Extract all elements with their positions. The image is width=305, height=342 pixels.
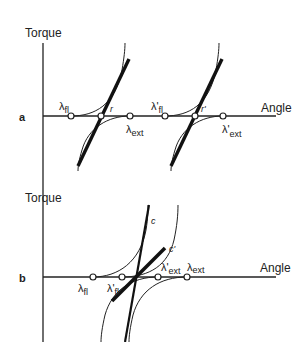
label-lambda-fl: λfl: [59, 100, 69, 115]
point-lambda-ext-prime-b: [155, 274, 161, 280]
curve-ext-lower-b: [129, 277, 187, 342]
label-lambda-fl-prime-b: λ'fl: [107, 282, 119, 297]
point-lambda-ext-b: [184, 274, 190, 280]
panel-a-y-label: Torque: [25, 26, 62, 40]
label-c: c: [151, 216, 156, 226]
curve-fl-upper-b: [93, 205, 148, 277]
point-lambda-fl-prime-b: [119, 274, 125, 280]
curve-ext-prime-lower: [171, 116, 223, 171]
label-c-prime: c': [169, 244, 176, 254]
curve-ext-lower: [78, 116, 130, 171]
stiffness-line-r: [78, 59, 129, 166]
panel-a-x-label: Angle: [261, 101, 292, 115]
curve-fl-upper: [71, 43, 125, 116]
label-r-prime: r': [201, 104, 206, 114]
panel-b-x-label: Angle: [260, 261, 291, 275]
panel-b: Torque Angle b c c' λfl λ'fl λ'ext λext: [19, 171, 291, 342]
label-lambda-ext-prime-b: λ'ext: [161, 261, 181, 276]
point-lambda-fl-b: [90, 274, 96, 280]
panel-a-letter: a: [19, 111, 26, 123]
point-r: [98, 113, 104, 119]
point-r-prime: [192, 113, 198, 119]
panel-a: Torque Angle a λfl r λext λ'fl r' λ'ext: [19, 26, 292, 171]
point-lambda-ext-prime: [220, 113, 226, 119]
label-lambda-ext-prime: λ'ext: [222, 123, 242, 139]
torque-angle-figure: Torque Angle a λfl r λext λ'fl r' λ'ext …: [0, 0, 305, 342]
label-lambda-fl-prime: λ'fl: [151, 100, 163, 115]
label-lambda-fl-b: λfl: [78, 282, 88, 297]
panel-b-letter: b: [19, 272, 26, 284]
stiffness-line-r-prime: [171, 59, 222, 166]
label-lambda-ext: λext: [126, 123, 144, 138]
point-lambda-ext: [127, 113, 133, 119]
label-r: r: [110, 104, 114, 114]
label-lambda-ext-b: λext: [187, 261, 205, 275]
